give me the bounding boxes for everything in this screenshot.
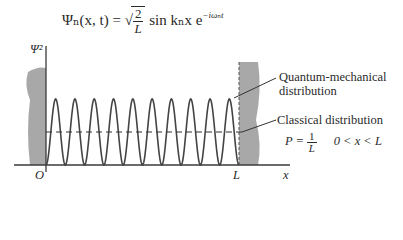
x-axis-label: x bbox=[283, 168, 289, 182]
L-label: L bbox=[233, 168, 240, 182]
y-axis-label: Ψ² bbox=[30, 42, 43, 56]
quantum-label: Quantum-mechanical distribution bbox=[279, 70, 387, 98]
right-wall bbox=[239, 62, 260, 165]
left-wall bbox=[26, 68, 46, 166]
classical-label: Classical distribution bbox=[277, 113, 383, 127]
origin-label: O bbox=[35, 168, 44, 182]
classical-formula: P = 1L 0 < x < L bbox=[285, 131, 382, 154]
